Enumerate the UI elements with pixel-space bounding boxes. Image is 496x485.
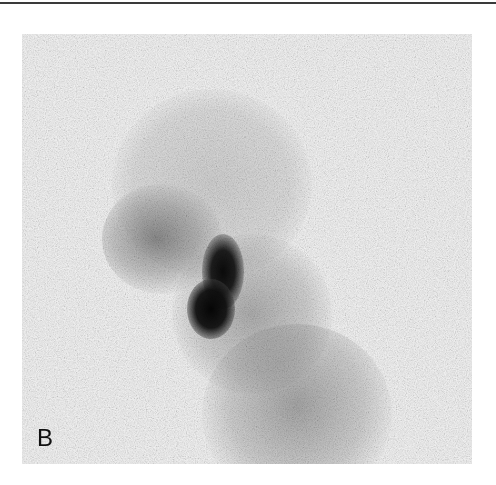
image-noise-texture bbox=[22, 34, 472, 464]
panel-label: B bbox=[37, 426, 53, 450]
top-divider-rule bbox=[0, 2, 496, 4]
scintigraphy-image-panel: B bbox=[22, 34, 472, 464]
